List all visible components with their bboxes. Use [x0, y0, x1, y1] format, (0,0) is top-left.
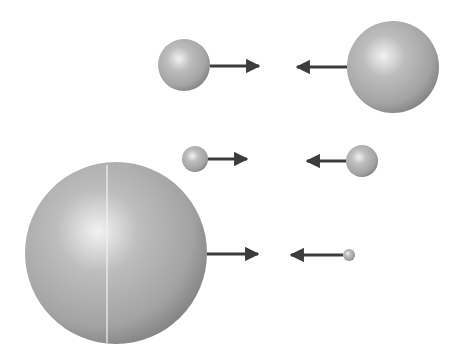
pair-2 — [182, 145, 378, 177]
left-mass-sphere — [158, 39, 210, 91]
pair-1 — [158, 21, 439, 113]
pair-3 — [25, 162, 355, 344]
left-mass-sphere — [182, 146, 208, 172]
right-mass-sphere — [346, 145, 378, 177]
gravity-diagram — [0, 0, 463, 361]
left-mass-sphere — [25, 162, 207, 344]
right-mass-sphere — [347, 21, 439, 113]
right-mass-sphere — [343, 249, 355, 261]
